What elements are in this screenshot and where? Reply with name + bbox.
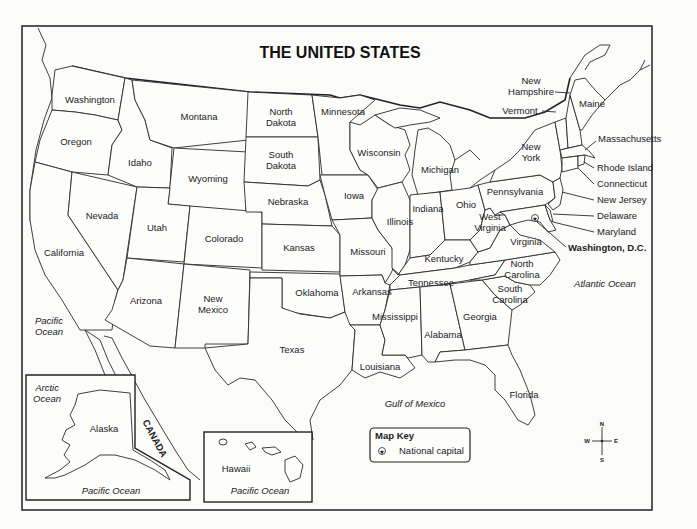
map-key-national-capital: National capital [399,445,464,456]
hawaii-island-kauai [219,439,227,445]
label-washington: Washington [65,94,115,105]
map-title: THE UNITED STATES [259,44,421,61]
compass-e: E [614,438,618,444]
label-south-carolina-2: Carolina [492,294,528,305]
label-pacific-ocean-1: Pacific [35,315,63,326]
label-arctic-ocean-1: Arctic [34,382,59,393]
star-icon: ★ [379,448,384,455]
label-new-mexico-1: New [203,293,222,304]
label-virginia: Virginia [510,236,542,247]
label-alabama: Alabama [424,329,462,340]
label-minnesota: Minnesota [321,106,366,117]
label-west-virginia-1: West [479,211,501,222]
label-new-york-1: New [521,141,540,152]
label-colorado: Colorado [205,233,244,244]
label-arctic-ocean-2: Ocean [33,393,61,404]
label-mississippi: Mississippi [372,311,418,322]
compass-w: W [584,438,590,444]
label-south-dakota-1: South [269,149,294,160]
label-new-mexico-2: Mexico [198,304,228,315]
label-idaho: Idaho [128,157,152,168]
us-map: THE UNITED STATES Washington Oregon Cali… [0,0,697,529]
label-south-carolina-1: South [498,283,523,294]
hawaii-inset: Hawaii Pacific Ocean [204,432,312,502]
leader-maryland [553,222,594,232]
label-north-dakota-2: Dakota [266,117,297,128]
label-texas: Texas [280,344,305,355]
national-capital-marker[interactable]: ★ [532,215,539,222]
label-indiana: Indiana [412,203,444,214]
star-icon: ★ [532,215,537,222]
label-washington-dc: Washington, D.C. [568,242,646,253]
label-gulf-of-mexico: Gulf of Mexico [385,398,446,409]
compass-n: N [600,421,604,427]
compass-s: S [600,457,604,463]
label-oregon: Oregon [60,136,92,147]
label-west-virginia-2: Virginia [474,222,506,233]
map-key: Map Key ★ National capital [370,428,470,462]
label-new-hampshire-1: New [521,75,540,86]
label-atlantic-ocean: Atlantic Ocean [573,278,636,289]
compass-center [601,440,604,443]
label-arkansas: Arkansas [352,286,392,297]
state-connecticut[interactable] [562,156,578,172]
leader-new-jersey [562,192,594,200]
label-pennsylvania: Pennsylvania [487,186,544,197]
label-florida: Florida [509,389,539,400]
state-rhode-island[interactable] [578,155,585,166]
label-montana: Montana [181,111,219,122]
label-massachusetts: Massachusetts [598,133,662,144]
label-kansas: Kansas [283,242,315,253]
label-nevada: Nevada [86,210,119,221]
label-georgia: Georgia [463,311,498,322]
label-california: California [44,247,85,258]
label-new-york-2: York [522,152,541,163]
label-new-hampshire-2: Hampshire [508,86,554,97]
label-oklahoma: Oklahoma [295,287,339,298]
label-hawaii-pacific-ocean: Pacific Ocean [231,485,290,496]
label-michigan: Michigan [421,164,459,175]
state-michigan[interactable] [412,128,455,195]
label-vermont: Vermont [502,105,538,116]
label-missouri: Missouri [350,246,385,257]
label-pacific-ocean-2: Ocean [35,326,63,337]
label-alaska: Alaska [90,423,119,434]
leader-connecticut [578,168,594,184]
label-north-carolina-1: North [510,258,533,269]
label-ohio: Ohio [456,199,476,210]
label-new-jersey: New Jersey [597,194,647,205]
label-rhode-island: Rhode Island [597,162,653,173]
compass-rose: N S W E [584,421,618,463]
label-wyoming: Wyoming [188,173,228,184]
leader-delaware [553,214,594,216]
label-nebraska: Nebraska [268,196,309,207]
label-kentucky: Kentucky [424,253,463,264]
leader-massachusetts [585,141,596,150]
label-connecticut: Connecticut [597,178,648,189]
label-louisiana: Louisiana [360,361,401,372]
label-north-dakota-1: North [269,106,292,117]
label-maine: Maine [579,98,605,109]
label-south-dakota-2: Dakota [266,160,297,171]
label-maryland: Maryland [597,226,636,237]
state-florida[interactable] [435,345,535,425]
leader-rhode-island [584,162,594,168]
label-wisconsin: Wisconsin [357,147,400,158]
alaska-inset: Arctic Ocean Alaska Pacific Ocean [26,375,190,500]
label-alaska-pacific-ocean: Pacific Ocean [82,485,141,496]
label-tennessee: Tennessee [408,277,454,288]
label-north-carolina-2: Carolina [504,269,540,280]
label-arizona: Arizona [130,295,163,306]
label-iowa: Iowa [344,190,365,201]
label-illinois: Illinois [387,216,414,227]
label-delaware: Delaware [597,210,637,221]
label-hawaii: Hawaii [222,463,251,474]
map-key-title: Map Key [375,430,415,441]
label-utah: Utah [147,222,167,233]
leader-new-hampshire [555,92,570,93]
